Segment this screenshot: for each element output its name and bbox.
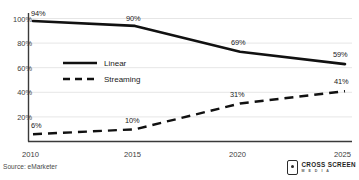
logo-subtitle: M E D I A (301, 170, 356, 174)
chart-title (0, 0, 359, 1)
y-tick-label: 80% (2, 39, 32, 48)
chart-legend: Linear Streaming (63, 55, 140, 87)
y-tick-label: 20% (2, 112, 32, 121)
data-label-streaming-2025: 41% (334, 77, 349, 86)
logo-text: CROSS SCREEN M E D I A (301, 162, 356, 173)
x-tick-label-2015: 2015 (124, 150, 141, 159)
y-tick-label: 100% (2, 14, 32, 23)
logo-name: CROSS SCREEN (301, 162, 356, 168)
series-line-streaming (33, 91, 345, 134)
chart-container: 100% 80% 60% 40% 20% 94% 90% 69% 59% 6% … (0, 0, 359, 180)
x-tick-label-2025: 2025 (334, 150, 351, 159)
cross-screen-media-logo: CROSS SCREEN M E D I A (287, 160, 356, 175)
data-label-linear-2025: 59% (333, 50, 348, 59)
data-label-streaming-2010: 6% (31, 121, 41, 130)
y-tick-label: 60% (2, 63, 32, 72)
legend-label-streaming: Streaming (104, 75, 140, 84)
y-tick-label: 40% (2, 88, 32, 97)
legend-swatch-dashed-icon (63, 74, 97, 84)
legend-item-linear: Linear (63, 55, 140, 71)
data-label-linear-2015: 90% (126, 14, 141, 23)
data-label-streaming-2020: 31% (230, 90, 245, 99)
legend-label-linear: Linear (104, 59, 126, 68)
plot-svg (0, 5, 359, 150)
data-label-streaming-2015: 10% (125, 116, 140, 125)
device-icon (287, 160, 298, 175)
data-label-linear-2020: 69% (231, 38, 246, 47)
source-note: Source: eMarketer (3, 163, 57, 170)
plot-area: 100% 80% 60% 40% 20% 94% 90% 69% 59% 6% … (0, 5, 359, 150)
x-tick-label-2020: 2020 (229, 150, 246, 159)
legend-swatch-solid-icon (63, 58, 97, 68)
data-label-linear-2010: 94% (31, 9, 46, 18)
legend-item-streaming: Streaming (63, 71, 140, 87)
x-tick-label-2010: 2010 (22, 150, 39, 159)
